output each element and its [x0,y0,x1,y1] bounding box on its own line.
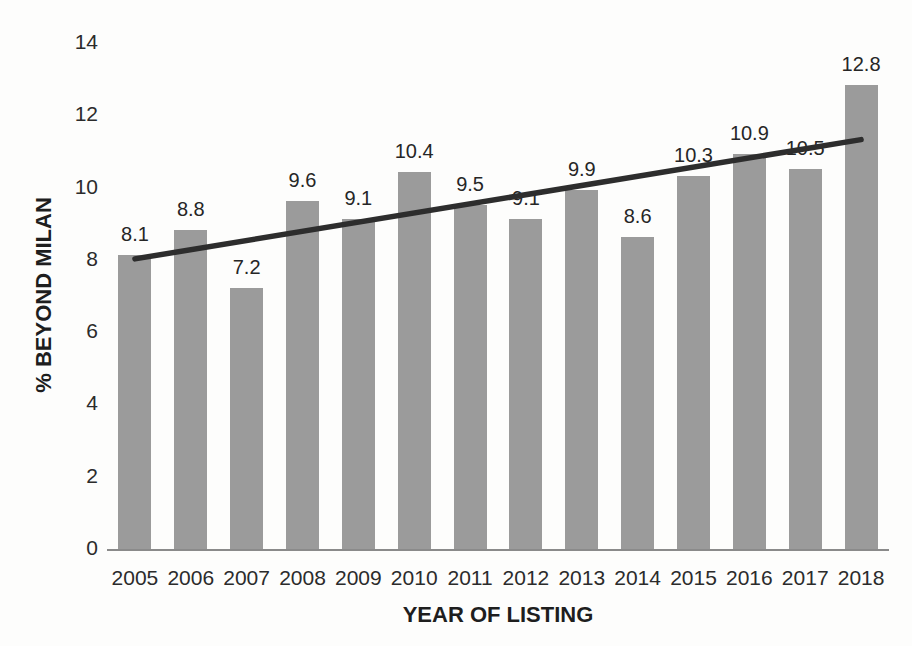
trendline [0,0,912,646]
plot-area: 024681012148.120058.820067.220079.620089… [0,0,912,646]
x-axis-title: YEAR OF LISTING [107,602,889,628]
chart: % BEYOND MILAN 024681012148.120058.82006… [0,0,912,646]
